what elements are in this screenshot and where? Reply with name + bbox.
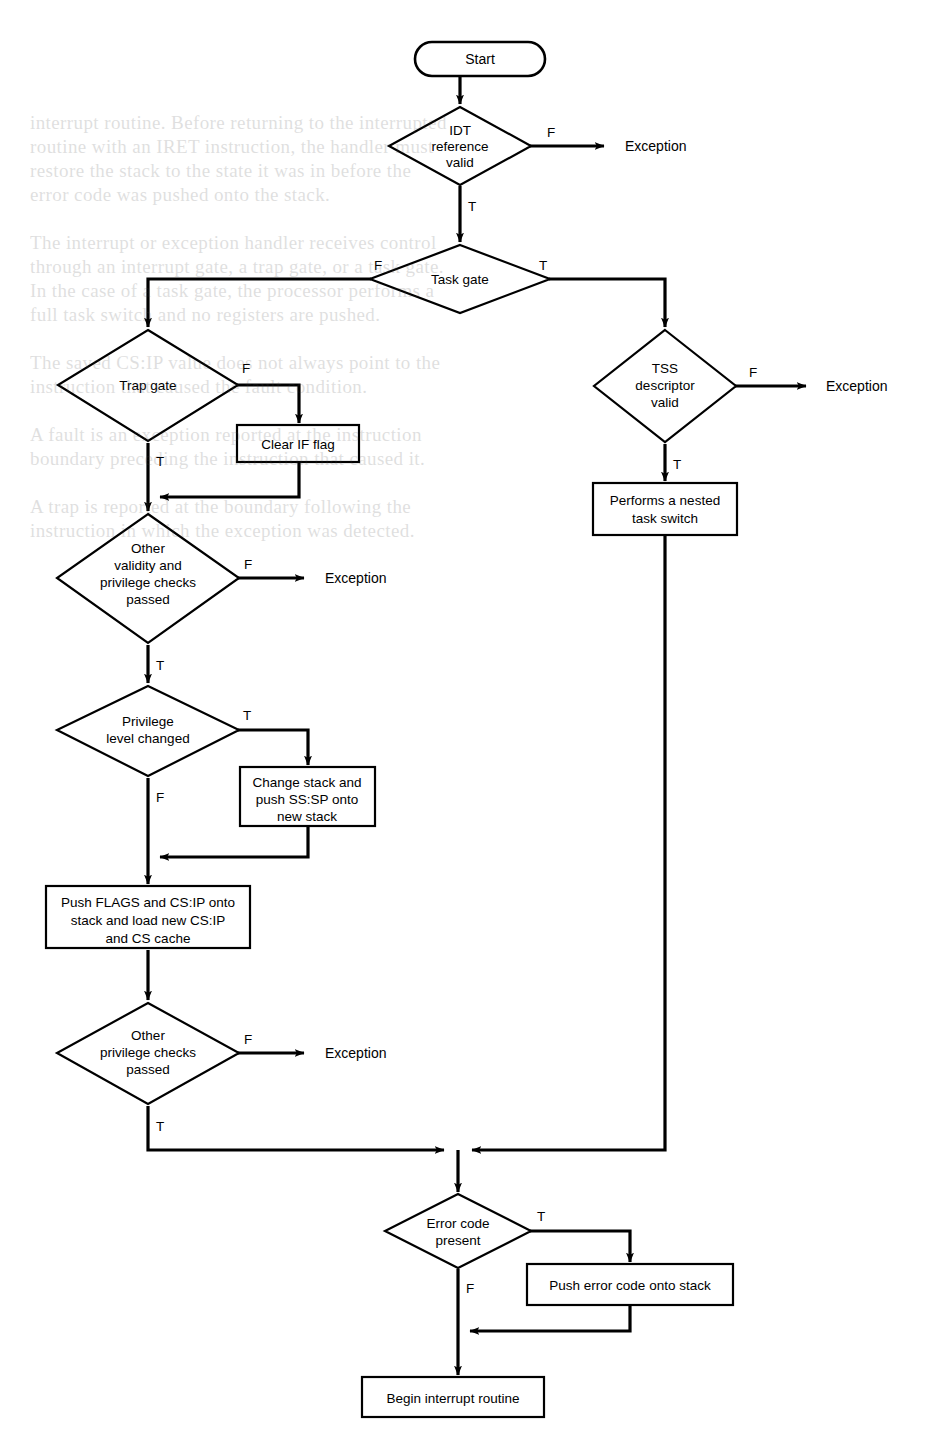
flowchart-canvas: interrupt routine. Before returning to t…	[0, 0, 945, 1439]
node-exception-2: Exception	[826, 378, 887, 394]
node-tss-line-2: descriptor	[635, 378, 695, 393]
node-changestack-line-1: Change stack and	[253, 775, 362, 790]
node-pushflags-line-2: stack and load new CS:IP	[71, 913, 226, 928]
node-validity-line-1: Other	[131, 541, 165, 556]
node-privilege-level-changed: Privilege level changed	[57, 686, 239, 776]
node-performs-nested-task-switch: Performs a nested task switch	[593, 483, 737, 535]
edge-label-tss-false: F	[749, 365, 757, 380]
edge-label-idt-true: T	[468, 199, 476, 214]
node-idt-reference-valid: IDT reference valid	[389, 107, 531, 185]
edge-errorcode-true-to-push	[530, 1231, 630, 1262]
edge-label-trapgate-true: T	[156, 454, 164, 469]
node-tss-line-3: valid	[651, 395, 679, 410]
node-validity-line-4: passed	[126, 592, 170, 607]
node-errorcode-line-1: Error code	[426, 1216, 489, 1231]
edge-label-taskgate-true: T	[539, 258, 547, 273]
node-push-flags: Push FLAGS and CS:IP onto stack and load…	[46, 886, 250, 948]
edge-taskgate-true-to-tss	[549, 279, 665, 327]
node-task-gate: Task gate	[370, 245, 550, 313]
edge-label-errorcode-false: F	[466, 1281, 474, 1296]
node-clear-if-flag: Clear IF flag	[237, 425, 359, 462]
node-push-error-code: Push error code onto stack	[527, 1264, 733, 1305]
node-pushflags-line-1: Push FLAGS and CS:IP onto	[61, 895, 235, 910]
node-privchange-line-1: Privilege	[122, 714, 174, 729]
node-start-label: Start	[465, 51, 495, 67]
node-validity-line-2: validity and	[114, 558, 182, 573]
edge-label-idt-false: F	[547, 125, 555, 140]
node-tss-line-1: TSS	[652, 361, 678, 376]
edge-label-otherpriv-true: T	[156, 1119, 164, 1134]
node-begin-interrupt-routine: Begin interrupt routine	[362, 1377, 544, 1417]
edge-otherpriv-true-to-merge	[148, 1106, 444, 1150]
node-errorcode-line-2: present	[435, 1233, 480, 1248]
node-changestack-line-3: new stack	[277, 809, 337, 824]
node-pushflags-line-3: and CS cache	[106, 931, 191, 946]
node-idt-line-3: valid	[446, 155, 474, 170]
node-idt-line-1: IDT	[449, 123, 471, 138]
edge-label-trapgate-false: F	[242, 361, 250, 376]
node-otherpriv-line-2: privilege checks	[100, 1045, 196, 1060]
node-tss-descriptor-valid: TSS descriptor valid	[594, 330, 736, 442]
node-clearif-label: Clear IF flag	[261, 437, 335, 452]
node-pusherror-label: Push error code onto stack	[549, 1278, 711, 1293]
edge-label-privchange-true: T	[243, 708, 251, 723]
node-changestack-line-2: push SS:SP onto	[256, 792, 359, 807]
node-begin-label: Begin interrupt routine	[387, 1391, 520, 1406]
node-error-code-present: Error code present	[385, 1194, 531, 1268]
edge-label-validity-false: F	[244, 557, 252, 572]
edge-trapgate-false-to-clearif	[237, 385, 299, 423]
flowchart-svg: Start IDT reference valid F T Exception …	[0, 0, 945, 1439]
node-validity-line-3: privilege checks	[100, 575, 196, 590]
edge-privchange-true-to-changestack	[238, 730, 308, 765]
node-trap-gate: Trap gate	[58, 330, 238, 441]
node-nested-line-2: task switch	[632, 511, 698, 526]
edge-nested-to-merge	[472, 535, 665, 1150]
node-idt-line-2: reference	[431, 139, 488, 154]
edge-label-tss-true: T	[673, 457, 681, 472]
edge-label-validity-true: T	[156, 658, 164, 673]
node-other-validity-checks: Other validity and privilege checks pass…	[57, 514, 239, 643]
node-taskgate-label: Task gate	[431, 272, 489, 287]
node-exception-1: Exception	[625, 138, 686, 154]
node-change-stack: Change stack and push SS:SP onto new sta…	[240, 767, 375, 826]
node-trapgate-label: Trap gate	[119, 378, 176, 393]
node-exception-3: Exception	[325, 570, 386, 586]
node-otherpriv-line-1: Other	[131, 1028, 165, 1043]
edge-taskgate-false-to-trapgate	[148, 279, 371, 327]
node-otherpriv-line-3: passed	[126, 1062, 170, 1077]
node-nested-line-1: Performs a nested	[610, 493, 720, 508]
edge-label-otherpriv-false: F	[244, 1032, 252, 1047]
node-exception-4: Exception	[325, 1045, 386, 1061]
edge-pusherror-to-trunk	[470, 1305, 630, 1331]
edge-changestack-to-trunk	[160, 826, 308, 857]
node-privchange-line-2: level changed	[106, 731, 189, 746]
edge-label-privchange-false: F	[156, 790, 164, 805]
node-start: Start	[415, 42, 545, 76]
edge-clearif-to-trunk	[160, 462, 299, 497]
edge-label-taskgate-false: F	[374, 258, 382, 273]
node-other-privilege-checks: Other privilege checks passed	[57, 1003, 239, 1104]
edge-label-errorcode-true: T	[537, 1209, 545, 1224]
